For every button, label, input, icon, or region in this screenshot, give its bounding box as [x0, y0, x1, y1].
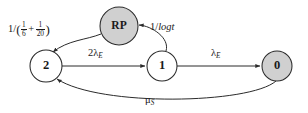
node-zero-label: 0 — [274, 58, 280, 72]
edge-label-open-paren: ( — [16, 22, 20, 37]
fraction-denominator: 20 — [36, 30, 45, 38]
edge-label-rp-to-two: 1/(16+120) — [8, 21, 50, 37]
edge-label-coefficient: 2λ — [88, 47, 98, 58]
edge-label-zero-to-two: μS — [145, 95, 154, 107]
edge-label-close-paren: ) — [46, 22, 50, 37]
node-one-label: 1 — [159, 58, 165, 72]
edge-label-variable: logt — [158, 21, 174, 32]
edge-zero-to-two — [57, 79, 276, 99]
edge-label-subscript: E — [98, 52, 102, 60]
edge-label-lead: 1/ — [150, 21, 158, 32]
edge-label-one-to-rp: 1/logt — [150, 22, 175, 33]
node-rp-label: RP — [111, 19, 126, 31]
fraction-denominator: 6 — [21, 30, 27, 38]
edge-label-subscript: E — [216, 52, 220, 60]
fraction-one-sixth: 16 — [21, 21, 27, 37]
node-two-label: 2 — [43, 58, 49, 72]
edge-label-lead: 1/ — [8, 23, 16, 34]
fraction-one-twentieth: 120 — [36, 21, 45, 37]
edge-label-two-to-one: 2λE — [88, 48, 103, 60]
edge-label-subscript: S — [151, 99, 155, 107]
edge-label-one-to-zero: λE — [211, 48, 220, 60]
edge-label-operator: + — [28, 23, 34, 34]
state-transition-diagram: RP 2 1 0 1/(16+120) 1/logt 2λE λE μS — [0, 0, 308, 113]
